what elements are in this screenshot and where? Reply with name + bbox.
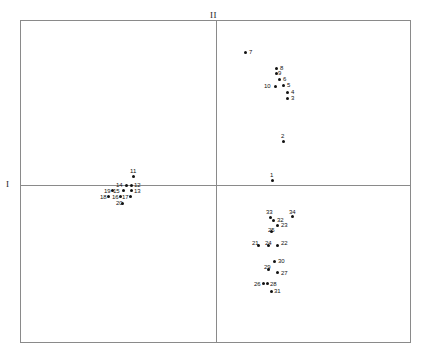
data-point-label: 32 — [277, 217, 284, 223]
horizontal-axis-label: I — [6, 179, 10, 189]
data-point-label: 21 — [252, 240, 259, 246]
data-point-label: 24 — [265, 240, 272, 246]
data-point — [286, 91, 289, 94]
data-point-label: 13 — [134, 188, 141, 194]
data-point-label: 11 — [130, 168, 136, 174]
data-point-label: 9 — [278, 70, 281, 76]
data-point-label: 1 — [270, 172, 273, 178]
data-point-label: 2 — [281, 133, 284, 139]
data-point — [130, 189, 133, 192]
data-point-label: 4 — [291, 89, 294, 95]
data-point-label: 17 — [122, 194, 129, 200]
data-point — [266, 282, 269, 285]
horizontal-axis-line — [20, 185, 411, 186]
data-point-label: 30 — [278, 258, 285, 264]
data-point-label: 26 — [254, 281, 261, 287]
data-point-label: 5 — [287, 82, 290, 88]
data-point — [132, 175, 135, 178]
data-point — [282, 84, 285, 87]
data-point-label: 29 — [264, 264, 271, 270]
data-point — [269, 216, 272, 219]
data-point — [278, 78, 281, 81]
data-point — [271, 179, 274, 182]
data-point-label: 19 — [104, 188, 111, 194]
data-point-label: 28 — [270, 281, 277, 287]
data-point — [272, 219, 275, 222]
data-point — [273, 260, 276, 263]
data-point-label: 31 — [274, 288, 281, 294]
data-point-label: 6 — [283, 76, 286, 82]
data-point-label: 10 — [264, 83, 271, 89]
data-point — [130, 184, 133, 187]
data-point — [274, 85, 277, 88]
vertical-axis-label: II — [210, 10, 217, 20]
data-point-label: 27 — [281, 270, 288, 276]
data-point — [262, 282, 265, 285]
data-point — [276, 244, 279, 247]
data-point-label: 7 — [249, 49, 252, 55]
data-point-label: 3 — [291, 95, 294, 101]
data-point — [125, 184, 128, 187]
data-point — [270, 290, 273, 293]
data-point-label: 34 — [289, 209, 296, 215]
data-point-label: 33 — [266, 209, 273, 215]
data-point-label: 25 — [268, 227, 275, 233]
data-point-label: 18 — [100, 194, 107, 200]
data-point — [122, 189, 125, 192]
data-point — [244, 51, 247, 54]
data-point — [276, 271, 279, 274]
data-point — [282, 140, 285, 143]
data-point — [286, 97, 289, 100]
scatter-plot-figure: II I 12345678910111213141516171819202122… — [0, 0, 429, 354]
data-point — [276, 224, 279, 227]
data-point-label: 20 — [116, 200, 123, 206]
data-point-label: 22 — [281, 240, 288, 246]
vertical-axis-line — [216, 20, 217, 343]
